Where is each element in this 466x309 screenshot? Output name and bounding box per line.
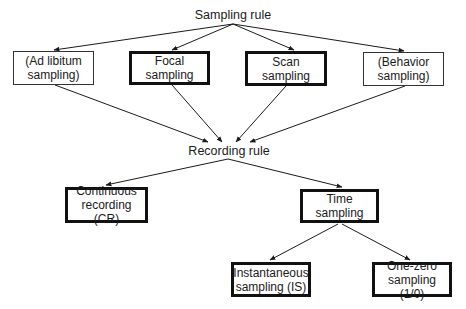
scan-sampling-box: Scan sampling xyxy=(245,51,327,86)
box-line: Focal xyxy=(145,54,193,68)
edge-recording-time xyxy=(228,159,342,187)
edge-recording-continuous xyxy=(106,159,228,185)
box-line: sampling) xyxy=(377,69,429,83)
box-line: recording (CR) xyxy=(68,198,145,226)
edge-adlibitum-recording xyxy=(55,85,208,142)
box-line: (Ad libitum xyxy=(25,54,82,68)
edge-focal-recording xyxy=(172,85,222,142)
edge-root-scan xyxy=(233,24,294,50)
edge-time-instantaneous xyxy=(270,224,338,260)
edge-behavior-recording xyxy=(250,86,405,142)
ad-libitum-sampling-box: (Ad libitum sampling) xyxy=(13,51,94,85)
edge-root-adlibitum xyxy=(54,24,233,50)
recording-rule-label: Recording rule xyxy=(188,144,269,158)
edge-root-behavior xyxy=(233,24,404,51)
box-line: One-zero xyxy=(375,259,449,273)
sampling-rule-label: Sampling rule xyxy=(195,8,271,22)
time-sampling-box: Time sampling xyxy=(300,189,379,223)
edge-time-onezero xyxy=(342,224,410,260)
box-line: (Behavior xyxy=(377,55,429,69)
box-line: sampling (IS) xyxy=(233,280,308,294)
continuous-recording-box: Continuous recording (CR) xyxy=(65,187,148,223)
box-line: sampling (1/0) xyxy=(375,273,449,301)
box-line: Time sampling xyxy=(303,192,376,220)
one-zero-sampling-box: One-zero sampling (1/0) xyxy=(372,262,452,297)
edge-scan-recording xyxy=(236,86,286,142)
edge-root-focal xyxy=(172,24,233,50)
box-line: Continuous xyxy=(68,184,145,198)
box-line: sampling) xyxy=(25,68,82,82)
box-line: Instantaneous xyxy=(233,266,308,280)
box-line: Scan xyxy=(262,55,310,69)
box-line: sampling xyxy=(145,68,193,82)
behavior-sampling-box: (Behavior sampling) xyxy=(363,52,444,86)
instantaneous-sampling-box: Instantaneous sampling (IS) xyxy=(231,262,311,297)
box-line: sampling xyxy=(262,69,310,83)
focal-sampling-box: Focal sampling xyxy=(129,51,210,85)
